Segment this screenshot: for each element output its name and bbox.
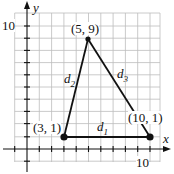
y-tick-label-10: 10	[2, 19, 15, 32]
segment-subscript: 2	[71, 79, 76, 89]
segment-label-d1: d1	[97, 120, 108, 137]
segment-subscript: 1	[104, 127, 109, 137]
x-axis-arrow-icon	[163, 146, 171, 152]
segment-subscript: 3	[124, 74, 129, 84]
point-label-5-9: (5, 9)	[71, 22, 99, 35]
x-axis-label: x	[163, 132, 169, 145]
x-tick-label-10: 10	[136, 156, 149, 169]
point-5-9	[85, 36, 90, 41]
point-label-10-1: (10, 1)	[128, 111, 163, 124]
point-3-1	[60, 133, 67, 140]
point-label-3-1: (3, 1)	[33, 121, 61, 134]
y-axis-arrow-icon	[24, 1, 30, 9]
point-10-1	[146, 133, 153, 140]
segment-label-d3: d3	[117, 67, 128, 84]
segment-label-d2: d2	[64, 72, 75, 89]
y-axis-label: y	[33, 1, 39, 14]
